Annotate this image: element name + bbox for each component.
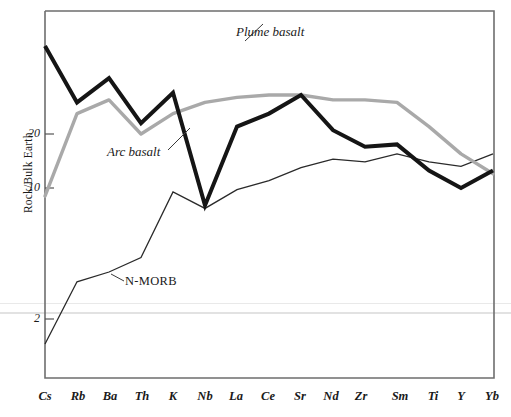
y-axis-title: Rock/Bulk Earth <box>22 132 34 213</box>
annotation-plume-basalt: Plume basalt <box>236 24 304 40</box>
y-tick-label-10: 10 <box>12 180 40 195</box>
series-line-n-morb <box>45 154 493 344</box>
annotation-arc-basalt: Arc basalt <box>107 144 160 160</box>
spider-diagram-figure: Rock/Bulk Earth 20 10 2 Cs Rb Ba Th K Nb… <box>0 0 511 417</box>
x-tick-label-zr: Zr <box>341 389 381 404</box>
y-tick-label-2: 2 <box>12 311 40 326</box>
y-tick-label-20: 20 <box>12 126 40 141</box>
plot-canvas <box>0 0 511 417</box>
x-tick-label-yb: Yb <box>472 389 511 404</box>
leader-line-n-morb <box>111 274 124 281</box>
annotation-n-morb: N-MORB <box>125 274 177 289</box>
plot-frame <box>45 11 494 378</box>
